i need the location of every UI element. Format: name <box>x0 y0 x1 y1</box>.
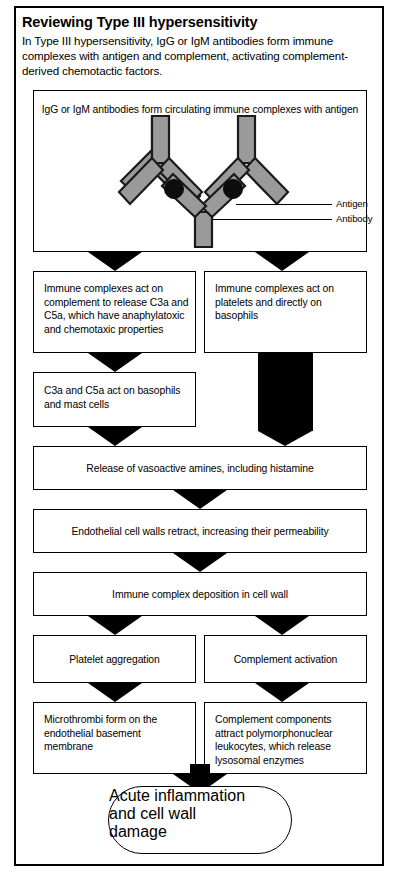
step-box-full-1-text: Release of vasoactive amines, including … <box>34 462 366 476</box>
step-box-left-1: Immune complexes act on complement to re… <box>33 271 196 353</box>
arrow-to-left-step-4 <box>88 683 142 702</box>
arrow-full-2-to-3 <box>173 553 227 572</box>
step-box-right-1-text: Immune complexes act on platelets and di… <box>215 282 360 323</box>
antigen-leader-line <box>236 204 332 205</box>
step-box-left-3: Platelet aggregation <box>33 635 196 683</box>
arrow-to-full-step-1 <box>88 427 142 446</box>
antibody-right-arm-a <box>244 158 288 204</box>
antibody-leader-line <box>213 219 332 220</box>
step-box-left-2-text: C3a and C5a act on basophils and mast ce… <box>44 384 189 411</box>
step-box-right-1: Immune complexes act on platelets and di… <box>204 271 367 353</box>
arrow-full-1-to-2 <box>173 490 227 509</box>
step-box-left-4-text: Microthrombi form on the endothelial bas… <box>44 713 189 754</box>
antibody-right-stem <box>238 116 255 163</box>
antibody-left-stem <box>152 116 169 163</box>
antigen-dot-left <box>165 180 184 199</box>
arrow-to-right-step-1 <box>255 252 309 271</box>
terminal-box: Acute inflammation and cell wall damage <box>108 786 292 854</box>
step-box-full-2: Endothelial cell walls retract, increasi… <box>33 509 367 553</box>
step-box-left-1-text: Immune complexes act on complement to re… <box>44 282 189 337</box>
antibody-label: Antibody <box>336 213 373 224</box>
diagram-page: Reviewing Type III hypersensitivity In T… <box>0 0 400 880</box>
arrow-to-left-step-3 <box>88 616 142 635</box>
step-box-full-2-text: Endothelial cell walls retract, increasi… <box>34 525 366 539</box>
step-box-left-2: C3a and C5a act on basophils and mast ce… <box>33 372 196 427</box>
antigen-label: Antigen <box>336 198 368 209</box>
step-box-right-2-text: Complement activation <box>205 653 366 667</box>
arrow-to-right-step-3 <box>255 683 309 702</box>
antibody-bottom-stem <box>195 212 212 247</box>
step-box-full-1: Release of vasoactive amines, including … <box>33 446 367 490</box>
connector-bar-right-tip <box>258 431 312 446</box>
arrow-to-left-step-2 <box>88 353 142 372</box>
connector-bar-right <box>258 353 313 431</box>
step-box-right-3: Complement components attract polymorpho… <box>204 702 367 774</box>
step-box-left-4: Microthrombi form on the endothelial bas… <box>33 702 196 774</box>
step-box-right-3-text: Complement components attract polymorpho… <box>215 713 360 768</box>
step-box-left-3-text: Platelet aggregation <box>34 653 195 667</box>
antigen-dot-right <box>224 180 243 199</box>
step-box-full-3-text: Immune complex deposition in cell wall <box>34 588 366 602</box>
step-box-right-2: Complement activation <box>204 635 367 683</box>
arrow-to-left-step-1 <box>88 252 142 271</box>
arrow-to-right-step-2 <box>255 616 309 635</box>
step-box-full-3: Immune complex deposition in cell wall <box>33 572 367 616</box>
terminal-text: Acute inflammation and cell wall damage <box>109 787 249 841</box>
